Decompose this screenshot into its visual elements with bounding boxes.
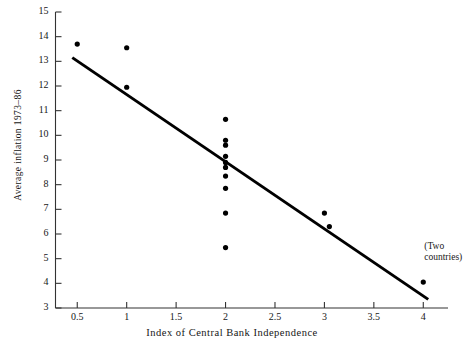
y-tick-label: 10: [23, 128, 49, 139]
data-point: [223, 245, 228, 250]
y-tick-label: 13: [23, 54, 49, 65]
y-tick-label: 11: [23, 104, 49, 115]
y-tick-label: 6: [23, 227, 49, 238]
data-point: [223, 154, 228, 159]
scatter-plot-figure: Average inflation 1973–86 Index of Centr…: [0, 0, 464, 347]
regression-line: [72, 58, 428, 300]
data-point: [223, 160, 228, 165]
y-tick-label: 5: [23, 252, 49, 263]
x-axis-title: Index of Central Bank Independence: [0, 327, 464, 338]
x-tick-label: 0.5: [57, 311, 97, 322]
data-point: [223, 186, 228, 191]
y-axis-title: Average inflation 1973–86: [13, 65, 23, 225]
data-point: [223, 117, 228, 122]
axes-group: [56, 12, 449, 308]
x-tick-label: 1: [107, 311, 147, 322]
x-tick-label: 3: [304, 311, 344, 322]
data-point: [124, 85, 129, 90]
y-tick-label: 7: [23, 202, 49, 213]
trend-line: [72, 58, 428, 300]
data-point: [421, 280, 426, 285]
x-tick-label: 3.5: [354, 311, 394, 322]
data-point: [75, 41, 80, 46]
x-tick-label: 2: [206, 311, 246, 322]
data-point: [223, 138, 228, 143]
y-tick-label: 15: [23, 5, 49, 16]
data-point: [223, 143, 228, 148]
data-point: [223, 173, 228, 178]
y-tick-label: 14: [23, 30, 49, 41]
plot-annotation-label: (Two: [424, 241, 444, 253]
y-tick-label: 9: [23, 153, 49, 164]
data-point: [322, 210, 327, 215]
data-point: [124, 45, 129, 50]
x-tick-label: 4: [403, 311, 443, 322]
y-tick-label: 12: [23, 79, 49, 90]
data-point: [223, 210, 228, 215]
data-point: [327, 224, 332, 229]
data-points-group: [75, 41, 426, 284]
y-tick-label: 8: [23, 178, 49, 189]
plot-canvas: [0, 0, 464, 347]
x-tick-label: 2.5: [255, 311, 295, 322]
data-point: [223, 165, 228, 170]
y-tick-label: 3: [23, 301, 49, 312]
x-tick-label: 1.5: [156, 311, 196, 322]
y-tick-label: 4: [23, 276, 49, 287]
plot-annotation-label: countries): [424, 252, 462, 264]
